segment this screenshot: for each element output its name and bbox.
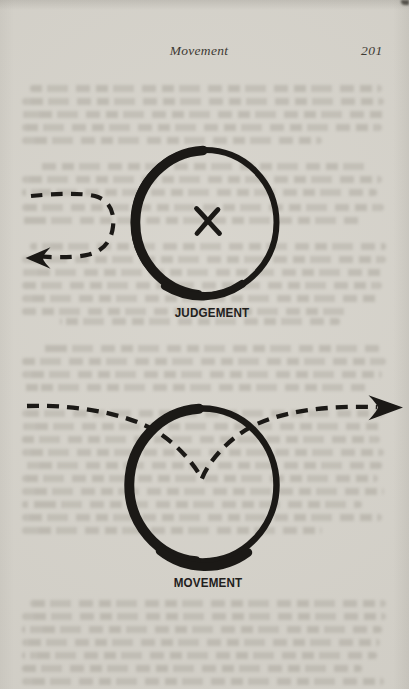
judgement-label: JUDGEMENT <box>175 306 250 320</box>
deflect-dashed-arrow <box>27 406 377 479</box>
movement-circle-thick-edge <box>129 409 199 562</box>
u-turn-dashed-arrow <box>31 194 113 257</box>
x-mark-icon <box>197 209 220 234</box>
book-page: Movement 201 JUDGEMENT MOVEMENT <box>0 0 409 689</box>
scan-corner-speck <box>401 0 409 5</box>
right-arrowhead <box>369 395 404 420</box>
judgement-circle-thick-edge <box>136 150 203 294</box>
movement-label: MOVEMENT <box>174 576 243 590</box>
movement-diagram <box>27 395 403 566</box>
judgement-diagram <box>26 150 277 296</box>
